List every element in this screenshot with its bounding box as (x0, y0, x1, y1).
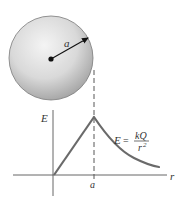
formula-exponent: 2 (143, 141, 147, 149)
charged-sphere: a (9, 16, 93, 100)
radius-label: a (64, 37, 70, 49)
x-axis-label: r (170, 170, 175, 182)
formula-denominator: r (138, 142, 142, 153)
formula-equals: = (123, 135, 129, 146)
y-axis-label: E (40, 112, 48, 124)
formula-label: E = kQ r 2 (113, 130, 149, 153)
inside-linear-segment (54, 117, 94, 175)
formula-lhs: E (113, 134, 121, 146)
formula-numerator: kQ (135, 130, 147, 141)
sphere-field-diagram: a E r a E = kQ r 2 (0, 0, 183, 205)
x-tick-label-a: a (90, 179, 95, 190)
